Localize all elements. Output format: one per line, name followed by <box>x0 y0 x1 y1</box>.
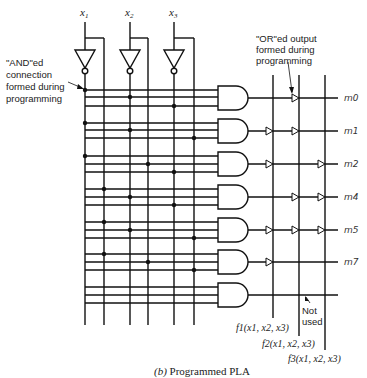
svg-text:programming: programming <box>6 93 62 104</box>
svg-text:m7: m7 <box>344 257 359 267</box>
input-label-x2: x2 <box>124 6 134 20</box>
svg-text:"AND"ed: "AND"ed <box>6 57 43 68</box>
svg-text:m5: m5 <box>344 225 359 235</box>
svg-text:programming: programming <box>256 55 312 66</box>
not-used-label: Not used <box>302 305 323 327</box>
minterm-labels: m0 m1 m2 m4 m5 m7 <box>344 93 359 267</box>
and-array-rows <box>85 90 218 303</box>
svg-text:m0: m0 <box>344 93 359 103</box>
figure-caption: (b) Programmed PLA <box>154 365 250 378</box>
pla-diagram: x1 x2 x3 "AND"ed connection formed durin… <box>0 0 367 378</box>
input-x3-inverter <box>164 22 194 325</box>
svg-text:Not: Not <box>302 305 317 316</box>
input-label-x3: x3 <box>168 6 178 20</box>
input-label-x1: x1 <box>79 6 88 20</box>
svg-text:formed during: formed during <box>256 44 315 55</box>
and-gates <box>218 86 248 307</box>
or-array-lines <box>273 75 325 350</box>
input-x1-inverter <box>75 22 104 325</box>
or-annotation: "OR"ed output formed during programming <box>256 33 317 66</box>
svg-text:used: used <box>302 316 323 327</box>
svg-text:m4: m4 <box>344 192 359 202</box>
and-annotation: "AND"ed connection formed during program… <box>6 57 65 104</box>
and-connection-dots <box>83 88 196 272</box>
svg-text:m1: m1 <box>344 126 359 136</box>
svg-text:"OR"ed output: "OR"ed output <box>256 33 317 44</box>
svg-text:m2: m2 <box>344 159 359 169</box>
output-label-f1: f1(x1, x2, x3) <box>236 322 289 334</box>
input-x2-inverter <box>120 22 148 325</box>
or-diodes <box>266 94 325 266</box>
svg-text:connection: connection <box>6 69 52 80</box>
svg-text:formed during: formed during <box>6 81 65 92</box>
output-label-f2: f2(x1, x2, x3) <box>262 338 315 350</box>
output-label-f3: f3(x1, x2, x3) <box>288 353 341 365</box>
